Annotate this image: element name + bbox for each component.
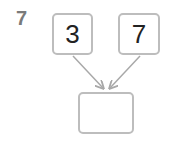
answer-box[interactable] <box>78 92 134 134</box>
arrow-left <box>73 56 103 88</box>
input-value-second: 7 <box>132 21 146 47</box>
arrow-right <box>110 56 140 88</box>
input-value-first: 3 <box>65 21 79 47</box>
input-box-first: 3 <box>52 13 93 55</box>
input-box-second: 7 <box>118 13 160 55</box>
